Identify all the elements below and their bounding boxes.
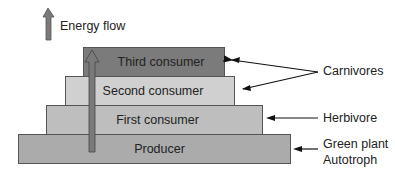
- green-plant-label: Green plant: [323, 136, 388, 152]
- herbivore-label: Herbivore: [323, 110, 377, 126]
- energy-flow-arrow-icon: [85, 50, 99, 152]
- carnivores-label: Carnivores: [323, 63, 383, 79]
- autotroph-label: Autotroph: [323, 152, 377, 168]
- carnivore-pointer-arrows: [232, 60, 318, 89]
